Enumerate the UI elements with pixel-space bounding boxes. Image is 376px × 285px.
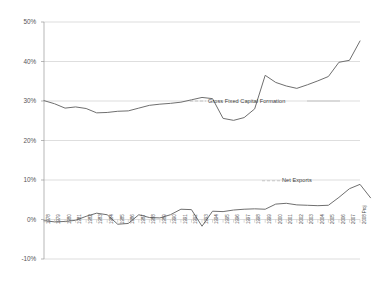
y-axis-label: 10%	[6, 176, 36, 183]
x-axis-label: 1996	[235, 214, 240, 224]
x-axis-label: 1983	[98, 214, 103, 224]
x-axis-label: 1980	[67, 214, 72, 224]
x-axis-label: 1991	[183, 214, 188, 224]
x-axis-label: 2003	[309, 214, 314, 224]
x-axis-label: 1989	[162, 214, 167, 224]
series-line-gross-fixed-capital-formation	[44, 41, 360, 120]
chart-plot-area	[0, 0, 376, 285]
x-axis-label: 1988	[151, 214, 156, 224]
x-axis-label: 2001	[288, 214, 293, 224]
x-axis-label: 1982	[88, 214, 93, 224]
x-axis-label: 1992	[193, 214, 198, 224]
x-axis-label: 1995	[225, 214, 230, 224]
y-axis-label: 30%	[6, 97, 36, 104]
x-axis-label: 1997	[246, 214, 251, 224]
axis-group	[41, 22, 44, 259]
x-axis-label: 2008 Proj	[362, 206, 367, 224]
x-axis-label: 1990	[172, 214, 177, 224]
y-axis-label: -10%	[6, 255, 36, 262]
y-axis-label: 40%	[6, 58, 36, 65]
x-axis-label: 2000	[278, 214, 283, 224]
x-axis-label: 1979	[56, 214, 61, 224]
annotation-leader-group	[190, 101, 340, 181]
x-axis-label: 1998	[256, 214, 261, 224]
x-axis-label: 2007	[351, 214, 356, 224]
x-axis-label: 2005	[330, 214, 335, 224]
chart-container: 50%40%30%20%10%0%-10% 197819791980198119…	[0, 0, 376, 285]
y-axis-label: 20%	[6, 137, 36, 144]
x-axis-label: 2004	[320, 214, 325, 224]
x-axis-label: 1981	[77, 214, 82, 224]
x-axis-label: 1985	[120, 214, 125, 224]
x-axis-label: 1986	[130, 214, 135, 224]
x-axis-label: 2006	[341, 214, 346, 224]
x-axis-label: 1993	[204, 214, 209, 224]
x-axis-label: 1987	[141, 214, 146, 224]
x-axis-label: 1984	[109, 214, 114, 224]
x-axis-label: 2002	[299, 214, 304, 224]
y-axis-label: 0%	[6, 216, 36, 223]
series-group	[44, 41, 371, 226]
series-label-net-exports: Net Exports	[282, 177, 312, 183]
x-axis-label: 1978	[46, 214, 51, 224]
x-axis-label: 1994	[214, 214, 219, 224]
y-axis-label: 50%	[6, 18, 36, 25]
series-label-gross-fixed-capital-formation: Gross Fixed Capital Formation	[208, 98, 285, 104]
x-axis-label: 1999	[267, 214, 272, 224]
